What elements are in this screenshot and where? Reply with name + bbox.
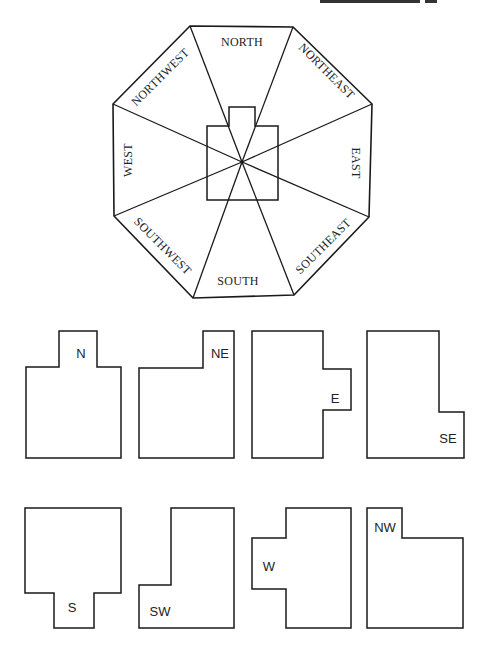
compass-center-point: [240, 160, 244, 164]
plan-southwest: SW: [139, 508, 234, 628]
central-house-plan: [207, 107, 278, 200]
label-northwest: NORTHWEST: [128, 45, 192, 109]
label-east: EAST: [349, 147, 363, 179]
label-northeast: NORTHEAST: [296, 40, 358, 102]
plan-southeast: SE: [367, 331, 464, 458]
plan-west: W: [252, 508, 351, 628]
plan-south: S: [25, 508, 121, 628]
plan-north: N: [26, 331, 121, 458]
plan-label-w: W: [263, 559, 276, 574]
plan-northwest: NW: [367, 508, 463, 628]
label-west: WEST: [121, 143, 135, 177]
plan-label-n: N: [76, 346, 85, 361]
plan-label-se: SE: [439, 431, 457, 446]
cropped-header-fragment: [320, 0, 437, 3]
plan-label-sw: SW: [150, 604, 172, 619]
label-north: NORTH: [221, 35, 263, 49]
label-south: SOUTH: [217, 274, 259, 288]
plan-northeast: NE: [139, 331, 234, 458]
plan-label-s: S: [68, 600, 77, 615]
label-southeast: SOUTHEAST: [293, 215, 355, 277]
plan-label-nw: NW: [374, 520, 396, 535]
plan-east: E: [252, 331, 351, 458]
plan-label-ne: NE: [211, 346, 229, 361]
compass-octagon: NORTH NORTHEAST EAST SOUTHEAST SOUTH SOU…: [113, 26, 372, 298]
compass-diagram: NORTH NORTHEAST EAST SOUTHEAST SOUTH SOU…: [0, 0, 490, 655]
plan-label-e: E: [331, 391, 340, 406]
label-southwest: SOUTHWEST: [131, 215, 194, 278]
